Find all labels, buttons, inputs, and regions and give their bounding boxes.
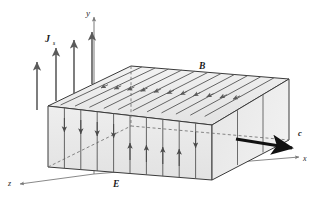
y-axis-label: y [85,8,90,18]
diagram-canvas: y z x J s B E c [0,0,322,202]
surface-current-label: J [44,33,51,44]
propagation-velocity-label: c [298,128,302,138]
magnetic-field-label: B [198,61,205,71]
x-axis-label: x [302,154,307,163]
z-axis-label: z [7,179,12,188]
surface-current-label-group: J s [44,33,55,46]
z-axis-line [20,174,94,184]
surface-current-subscript: s [52,40,55,46]
physics-diagram-em-wave: y z x J s B E c [0,0,322,202]
electric-field-label: E [112,179,119,189]
